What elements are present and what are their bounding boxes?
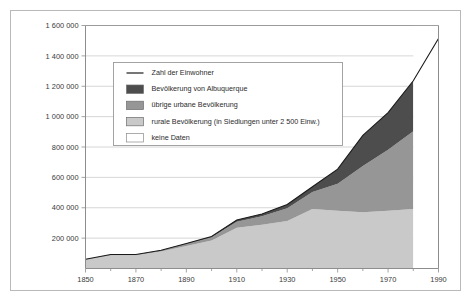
x-tick-label-1950: 1950 bbox=[329, 275, 345, 284]
x-tick-label-1850: 1850 bbox=[77, 275, 93, 284]
legend-swatch-box bbox=[127, 85, 144, 93]
legend-label: rurale Bevölkerung (in Siedlungen unter … bbox=[152, 117, 320, 126]
y-tick-label-600000: 600 000 bbox=[52, 173, 79, 182]
y-tick-label-1000000: 1 000 000 bbox=[46, 112, 79, 121]
legend-label: Bevölkerung von Albuquerque bbox=[152, 84, 248, 93]
y-tick-label-1200000: 1 200 000 bbox=[46, 82, 79, 91]
x-tick-label-1890: 1890 bbox=[178, 275, 194, 284]
y-tick-label-400000: 400 000 bbox=[52, 203, 79, 212]
x-tick-label-1910: 1910 bbox=[229, 275, 245, 284]
legend-item-4: keine Daten bbox=[127, 133, 190, 142]
legend-label: Zahl der Einwohner bbox=[152, 68, 215, 77]
y-tick-label-1400000: 1 400 000 bbox=[46, 52, 79, 61]
y-axis-tick-labels: 200 000400 000600 000800 0001 000 0001 2… bbox=[46, 21, 79, 243]
x-tick-label-1870: 1870 bbox=[128, 275, 144, 284]
legend-swatch-box bbox=[127, 101, 144, 109]
y-tick-label-800000: 800 000 bbox=[52, 143, 79, 152]
no-data-rect bbox=[413, 26, 438, 269]
x-tick-label-1990: 1990 bbox=[430, 275, 446, 284]
legend-item-2: übrige urbane Bevölkerung bbox=[127, 100, 238, 109]
y-tick-label-1600000: 1 600 000 bbox=[46, 21, 79, 30]
y-tick-label-200000: 200 000 bbox=[52, 234, 79, 243]
legend-label: übrige urbane Bevölkerung bbox=[152, 100, 238, 109]
legend-label: keine Daten bbox=[152, 133, 190, 142]
legend-swatch-box bbox=[127, 117, 144, 125]
no-data-region bbox=[413, 26, 438, 269]
x-tick-label-1930: 1930 bbox=[279, 275, 295, 284]
chart-canvas: 200 000400 000600 000800 0001 000 0001 2… bbox=[0, 0, 473, 301]
population-chart-figure: 200 000400 000600 000800 0001 000 0001 2… bbox=[0, 0, 473, 301]
x-axis-tick-labels: 18501870189019101930195019701990 bbox=[77, 275, 446, 284]
legend-swatch-box bbox=[127, 134, 144, 142]
legend-item-3: rurale Bevölkerung (in Siedlungen unter … bbox=[127, 117, 320, 126]
chart-legend: Zahl der EinwohnerBevölkerung von Albuqu… bbox=[114, 63, 343, 146]
x-tick-label-1970: 1970 bbox=[380, 275, 396, 284]
